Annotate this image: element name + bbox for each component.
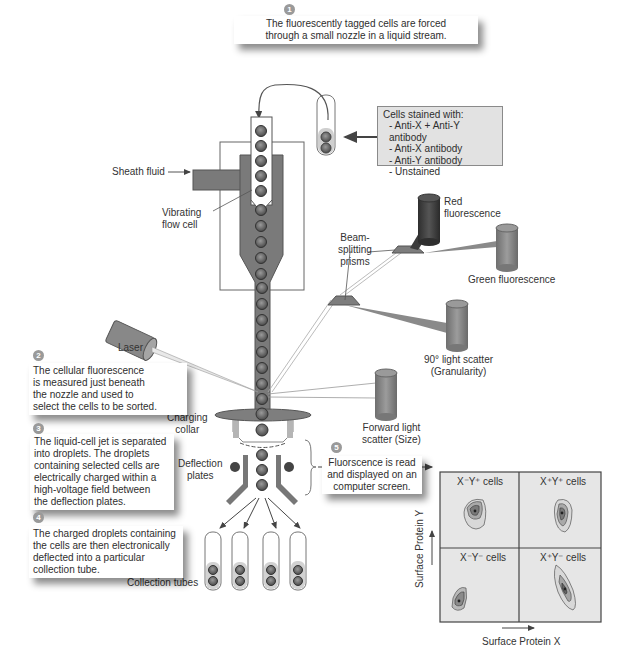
step-4-line: collection tube. [33,564,179,576]
step-2-line: select the cells to be sorted. [33,401,183,413]
prism-lower [328,296,360,305]
side-scatter-detector [345,300,468,352]
step-3-note: The liquid-cell jet is separated into dr… [30,434,174,510]
label-line: 90° light scatter [424,354,493,366]
label-line: prisms [338,256,372,268]
step-2-badge: 2 [33,350,44,361]
step-2-note: The cellular fluorescence is measured ju… [29,363,187,415]
step-4-note: The charged droplets containing the cell… [29,526,183,578]
step-4-badge: 4 [33,512,44,523]
stain-legend-box: Cells stained with: - Anti-X + Anti-Y an… [377,106,503,166]
step-1-line: through a small nozzle in a liquid strea… [238,30,474,42]
step-2-line: is measured just beneath [33,377,183,389]
label-line: Beam- [338,232,372,244]
step-5-note: Fluorscence is read and displayed on an … [322,456,422,494]
quadrant-label-top-right: X⁺Y⁺ cells [540,476,586,487]
label-forward-light-scatter: Forward light scatter (Size) [362,422,421,446]
stain-item: - Anti-Y antibody [383,155,497,166]
step-2-line: the nozzle and used to [33,389,183,401]
step-3-line: into droplets. The droplets [34,448,170,460]
x-axis-label: Surface Protein X [482,636,560,648]
step-4-line: deflected into a particular [33,552,179,564]
label-vibrating-flow-cell: Vibrating flow cell [162,207,201,231]
label-red-fluorescence: Red fluorescence [444,196,501,220]
red-fluorescence-detector [410,194,440,250]
step-2-line: The cellular fluorescence [33,365,183,377]
step-1-line: The fluorescently tagged cells are force… [238,18,474,30]
step-5-badge: 5 [331,442,342,453]
label-line: plates [178,470,222,482]
label-line: Deflection [178,458,222,470]
step-5-line: Fluorscence is read [324,457,420,469]
y-axis-label: Surface Protein Y [414,510,425,588]
label-collection-tubes: Collection tubes [127,577,198,589]
step-5-line: and displayed on an [324,469,420,481]
step-3-line: electrically charged within a [34,472,170,484]
step-4-line: The charged droplets containing [33,528,179,540]
stain-item: - Anti-X antibody [383,143,497,154]
collection-tubes [205,532,306,590]
charging-collar [215,408,311,448]
step-3-line: containing selected cells are [34,460,170,472]
quadrant-label-bottom-left: X⁻Y⁻ cells [460,552,506,563]
label-charging-collar: Charging collar [167,412,208,436]
step-5-line: computer screen. [324,481,420,493]
label-line: fluorescence [444,208,501,220]
deflection-plates [226,450,298,506]
step-3-line: The liquid-cell jet is separated [34,436,170,448]
brace [305,440,316,495]
step-3-line: the deflection plates. [34,496,170,508]
step-3-line: high-voltage field between [34,484,170,496]
label-line: splitting [338,244,372,256]
label-line: flow cell [162,219,201,231]
label-deflection-plates: Deflection plates [178,458,222,482]
step-1-badge: 1 [284,4,295,15]
label-line: Forward light [362,422,421,434]
label-beam-splitting-prisms: Beam- splitting prisms [338,232,372,268]
stain-item: - Anti-X + Anti-Y antibody [383,120,497,143]
step-3-badge: 3 [33,423,44,434]
stain-title: Cells stained with: [383,109,497,120]
label-line: Vibrating [162,207,201,219]
step-4-line: the cells are then electronically [33,540,179,552]
label-90-light-scatter: 90° light scatter (Granularity) [424,354,493,378]
quadrant-label-top-left: X⁻Y⁺ cells [457,476,503,487]
label-line: (Granularity) [424,366,493,378]
label-green-fluorescence: Green fluorescence [468,274,555,286]
stain-item: - Unstained [383,166,497,177]
flow-plot [432,472,601,628]
quadrant-label-bottom-right: X⁺Y⁻ cells [540,552,586,563]
label-line: scatter (Size) [362,434,421,446]
label-line: Red [444,196,501,208]
label-laser: Laser [118,342,143,354]
label-sheath-fluid: Sheath fluid [112,166,165,178]
step-1-note: The fluorescently tagged cells are force… [234,16,478,44]
